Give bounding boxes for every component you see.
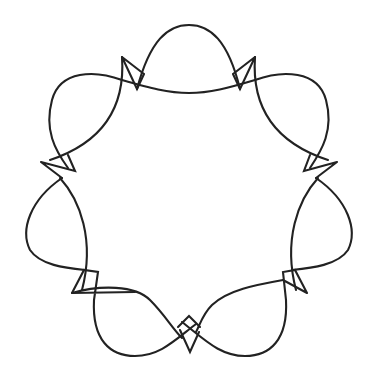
wave-upper-left <box>50 57 122 160</box>
curve-canvas <box>0 0 377 371</box>
lobe-upper-right <box>255 74 329 168</box>
curve-figure: Closed decorative curve with eight lobes… <box>0 0 377 371</box>
lobe-right <box>292 178 352 270</box>
lobe-upper-left <box>49 74 122 168</box>
lobe-bottom-right <box>196 280 283 332</box>
wave-top <box>122 80 255 93</box>
wave-bottom-left <box>94 300 196 356</box>
wave-right <box>291 178 318 290</box>
lobe-left <box>26 178 85 270</box>
cusp-bottom-left <box>72 270 135 300</box>
lobe-bottom-left <box>72 288 182 338</box>
wave-upper-right <box>255 57 328 160</box>
cusp-left <box>41 155 75 178</box>
lobe-top <box>137 25 240 89</box>
closed-curve <box>26 25 351 356</box>
